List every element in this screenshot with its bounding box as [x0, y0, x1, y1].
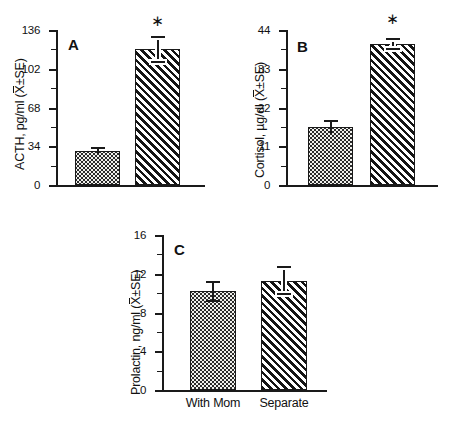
panel-c-tick-label-0: 0: [140, 385, 146, 397]
panel-b-y-axis-title: Cortisol, µg/dl (X±SE): [254, 62, 267, 178]
panel-b-y-axis: [286, 30, 288, 187]
panel-b-significance-star: ∗: [386, 12, 399, 27]
panel-c-tick-label-8: 8: [140, 308, 146, 320]
panel-a-y-axis: [56, 30, 58, 187]
panel-c-bar-with-mom: [190, 291, 236, 390]
panel-a-tick-102: 102: [49, 69, 56, 71]
panel-b-minor-tick: [281, 127, 286, 128]
panel-a-minor-tick: [51, 166, 56, 167]
panel-b-tick-label-0: 0: [264, 180, 270, 192]
panel-c-tick-8: 8: [155, 313, 162, 315]
errorbar-cap-top: [91, 147, 105, 149]
panel-a-tick-0: 0: [49, 185, 56, 187]
panel-a-tick-label-102: 102: [22, 64, 40, 76]
panel-c-category-label-separate: Separate: [259, 396, 308, 410]
panel-c-minor-tick: [157, 293, 162, 294]
panel-a-minor-tick: [51, 127, 56, 128]
errorbar-cap-top: [386, 38, 400, 40]
panel-b-tick-33: 33: [279, 69, 286, 71]
panel-a-bar-with-mom: [75, 151, 120, 185]
panel-b-tick-11: 11: [279, 146, 286, 148]
errorbar-cap-bottom: [206, 300, 220, 302]
panel-c-tick-label-16: 16: [134, 230, 146, 242]
errorbar-cap-top: [206, 281, 220, 283]
x-bar-symbol: X: [254, 89, 267, 97]
panel-a-plot-area: 136 102 68 34 0: [56, 30, 205, 185]
panel-c-tick-label-12: 12: [134, 269, 146, 281]
panel-c-tick-label-4: 4: [140, 347, 146, 359]
panel-c-y-axis-title: Prolactin, ng/ml (X±SE): [130, 270, 143, 395]
panel-a-tick-label-68: 68: [28, 103, 40, 115]
errorbar-cap-bottom: [277, 293, 291, 295]
panel-c-minor-tick: [157, 332, 162, 333]
panel-a-significance-star: ∗: [151, 14, 164, 29]
panel-c: Prolactin, ng/ml (X±SE) C 16 12 8 4 0: [108, 215, 358, 430]
panel-b-minor-tick: [281, 49, 286, 50]
errorbar-cap-bottom: [151, 61, 165, 63]
panel-a-tick-68: 68: [49, 108, 56, 110]
panel-c-tick-4: 4: [155, 351, 162, 353]
panel-a-tick-label-34: 34: [28, 142, 40, 154]
panel-b-bar-with-mom: [308, 127, 353, 185]
panel-b: Cortisol, µg/dl (X±SE) B 44 33 22 11 0: [232, 0, 464, 215]
errorbar-stem: [212, 281, 214, 302]
errorbar-cap-top: [324, 120, 338, 122]
panel-c-tick-12: 12: [155, 274, 162, 276]
panel-b-tick-44: 44: [279, 30, 286, 32]
panel-b-x-axis: [286, 185, 438, 187]
panel-a-minor-tick: [51, 88, 56, 89]
panel-b-minor-tick: [281, 166, 286, 167]
panel-a-tick-label-0: 0: [34, 180, 40, 192]
panel-b-minor-tick: [281, 88, 286, 89]
panel-c-tick-16: 16: [155, 235, 162, 237]
panel-a-tick-136: 136: [49, 30, 56, 32]
panel-c-x-axis: [162, 390, 327, 392]
panel-b-tick-label-11: 11: [259, 142, 270, 154]
panel-b-bar-separate: [370, 44, 415, 185]
x-bar-symbol: X: [14, 85, 27, 93]
panel-c-plot-area: 16 12 8 4 0 With Mom: [162, 235, 327, 390]
panel-a-tick-34: 34: [49, 146, 56, 148]
panel-b-tick-label-44: 44: [258, 25, 270, 37]
panel-a-x-axis: [56, 185, 205, 187]
panel-a-bar-separate: [135, 49, 180, 185]
panel-a-tick-label-136: 136: [22, 25, 40, 37]
panel-b-tick-label-33: 33: [258, 64, 270, 76]
panel-c-minor-tick: [157, 371, 162, 372]
multi-panel-bar-figure: ACTH, pg/ml (X±SE) A 136 102 68 34 0: [0, 0, 464, 430]
panel-c-minor-tick: [157, 254, 162, 255]
panel-a: ACTH, pg/ml (X±SE) A 136 102 68 34 0: [0, 0, 232, 215]
errorbar-cap-top: [277, 266, 291, 268]
panel-c-tick-0: 0: [155, 390, 162, 392]
errorbar-stem: [157, 36, 159, 63]
errorbar-cap-top: [151, 36, 165, 38]
panel-a-minor-tick: [51, 49, 56, 50]
panel-b-tick-label-22: 22: [258, 103, 270, 115]
panel-c-y-axis: [162, 235, 164, 392]
panel-b-plot-area: 44 33 22 11 0: [286, 30, 438, 185]
panel-c-category-label-with-mom: With Mom: [186, 396, 241, 410]
errorbar-stem: [330, 120, 332, 134]
panel-b-tick-22: 22: [279, 108, 286, 110]
errorbar-cap-bottom: [386, 48, 400, 50]
panel-b-tick-0: 0: [279, 185, 286, 187]
errorbar-stem: [283, 266, 285, 295]
panel-c-bar-separate: [261, 281, 307, 391]
x-bar-symbol: X: [130, 297, 143, 305]
